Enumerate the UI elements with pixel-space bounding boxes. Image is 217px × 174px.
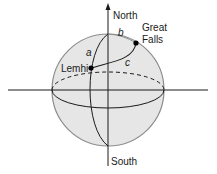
- north-label: North: [113, 10, 137, 21]
- great-falls-label-line1: Great: [142, 22, 167, 33]
- spherical-triangle-diagram: North South Great Falls Lemhi a b c: [0, 0, 217, 174]
- lemhi-label: Lemhi: [61, 63, 88, 74]
- great-falls-label-line2: Falls: [142, 34, 163, 45]
- north-arrow-icon: [106, 3, 111, 10]
- great-falls-point: [133, 40, 138, 45]
- south-label: South: [111, 156, 137, 167]
- lemhi-point: [88, 65, 93, 70]
- side-a-label: a: [86, 47, 92, 58]
- diagram-canvas: North South Great Falls Lemhi a b c: [0, 0, 217, 174]
- side-c-label: c: [125, 57, 130, 68]
- side-b-label: b: [118, 27, 124, 38]
